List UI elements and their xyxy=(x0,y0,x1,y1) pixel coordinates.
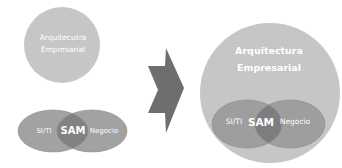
before-architecture-circle: Arquitecutra Empresarial xyxy=(24,7,100,83)
before-venn-left-label: SI/TI xyxy=(36,127,51,135)
before-venn: SI/TI SAM Negocio xyxy=(18,110,127,152)
before-circle-line1: Arquitecutra xyxy=(40,33,87,42)
after-venn-left-label: SI/TI xyxy=(226,117,242,126)
chevron-arrow-icon xyxy=(148,48,184,133)
before-venn-center-label: SAM xyxy=(61,125,86,136)
after-circle-line2: Empresarial xyxy=(237,62,301,73)
diagram-canvas: Arquitecutra Empresarial SI/TI SAM Negoc… xyxy=(0,0,342,168)
after-venn: SI/TI SAM Negocio xyxy=(212,100,325,148)
after-venn-center-label: SAM xyxy=(248,116,274,128)
after-circle-line1: Arquitectura xyxy=(235,45,303,56)
after-venn-right-label: Negocio xyxy=(280,117,311,126)
before-venn-right-label: Negocio xyxy=(90,127,118,135)
before-circle-line2: Empresarial xyxy=(41,45,86,54)
